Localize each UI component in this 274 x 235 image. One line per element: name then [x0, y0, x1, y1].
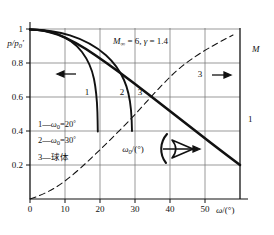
legend: 1—ω0=20° 2—ω0=30° 3—球体 — [38, 119, 76, 162]
cone-shock-sketch: ω0/(°) — [122, 134, 200, 163]
figure-container: 1 0.8 0.6 0.4 0.2 0 10 20 30 40 50 p/p0′… — [0, 0, 274, 235]
chart-canvas: 1 0.8 0.6 0.4 0.2 0 10 20 30 40 50 p/p0′… — [0, 0, 274, 235]
y-axis-title: p/p0′ — [6, 38, 25, 49]
curve-label-3-right: 3 — [198, 69, 203, 79]
series-1-curve — [30, 30, 98, 132]
x-tick-label-40: 40 — [166, 204, 176, 214]
right-axis-arrow — [212, 72, 231, 78]
x-tick-label-10: 10 — [61, 204, 71, 214]
x-tick-label-0: 0 — [28, 204, 33, 214]
curve-label-1: 1 — [85, 87, 90, 97]
y-tick-label-0-6: 0.6 — [12, 92, 24, 102]
y-tick-marks — [26, 29, 30, 165]
y-tick-label-1: 1 — [19, 24, 24, 34]
left-axis-arrow — [57, 71, 76, 77]
legend-entry-1: 1—ω0=20° — [38, 119, 76, 130]
x-tick-marks — [30, 199, 205, 203]
inset-label: ω0/(°) — [122, 144, 144, 155]
conditions-annotation: M∞ = 6, γ = 1.4 — [112, 36, 169, 47]
legend-entry-2: 2—ω0=30° — [38, 135, 76, 146]
legend-entry-3: 3—球体 — [38, 152, 69, 162]
x-tick-label-50: 50 — [201, 204, 211, 214]
grid-lines — [30, 28, 240, 199]
y-tick-label-0-2: 0.2 — [12, 160, 23, 170]
y-tick-label-0-4: 0.4 — [12, 126, 24, 136]
x-axis-title: ω/(°) — [216, 205, 234, 215]
curve-label-2: 2 — [120, 87, 125, 97]
svg-text:ω/(°): ω/(°) — [216, 205, 234, 215]
x-tick-label-20: 20 — [96, 204, 106, 214]
right-axis-title: M — [251, 44, 260, 54]
svg-text:p/p0′: p/p0′ — [6, 38, 25, 49]
x-tick-label-30: 30 — [131, 204, 141, 214]
svg-text:M∞ = 6, γ = 1.4: M∞ = 6, γ = 1.4 — [112, 36, 169, 47]
right-axis-tick-1: 1 — [248, 114, 253, 124]
curve-label-3-left: 3 — [138, 87, 143, 97]
y-tick-label-0-8: 0.8 — [12, 58, 24, 68]
